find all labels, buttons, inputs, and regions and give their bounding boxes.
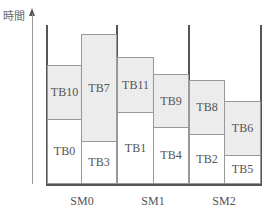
thread-block-tb6: TB6 [224,101,261,156]
thread-block-tb0: TB0 [47,119,82,184]
sm0-label: SM0 [62,194,102,209]
thread-block-tb5: TB5 [224,155,261,184]
thread-block-tb7: TB7 [81,34,117,142]
thread-block-tb4: TB4 [153,127,189,184]
thread-block-tb8: TB8 [189,80,225,135]
time-axis-label: 時間 [3,7,25,23]
time-axis [32,14,33,184]
baseline [46,184,261,186]
thread-block-tb11: TB11 [117,57,154,113]
thread-block-tb2: TB2 [189,134,225,184]
sm1-label: SM1 [133,194,173,209]
thread-block-tb10: TB10 [47,65,82,120]
thread-block-tb9: TB9 [153,74,189,128]
thread-block-tb3: TB3 [81,141,117,184]
sm2-label: SM2 [204,194,244,209]
thread-block-tb1: TB1 [117,112,154,184]
